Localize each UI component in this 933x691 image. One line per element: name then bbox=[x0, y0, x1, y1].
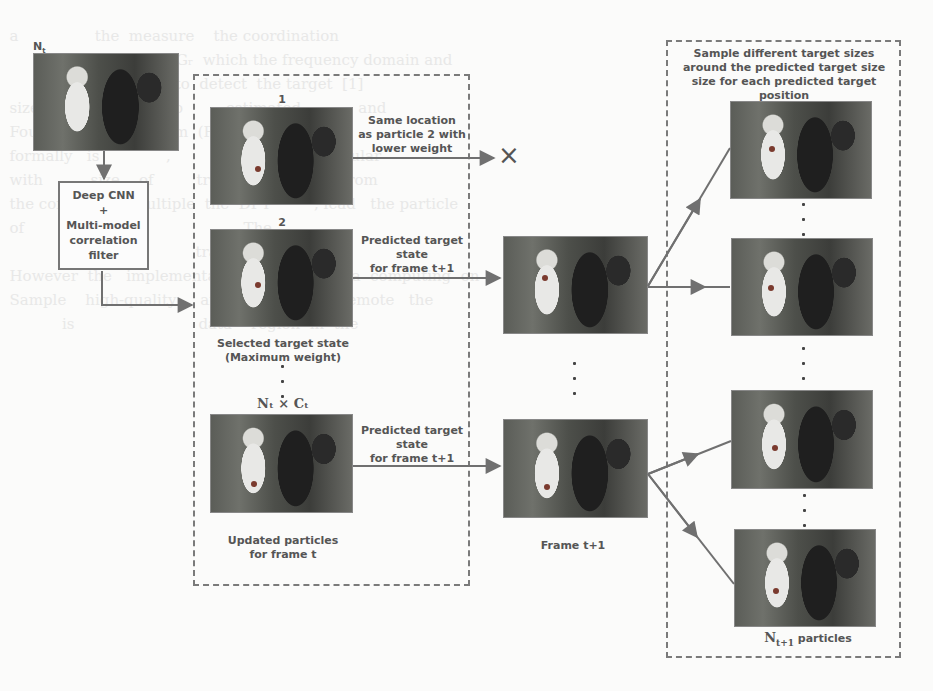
flow-arrows bbox=[0, 0, 933, 691]
arrow-cnn-to-particles bbox=[102, 271, 192, 305]
